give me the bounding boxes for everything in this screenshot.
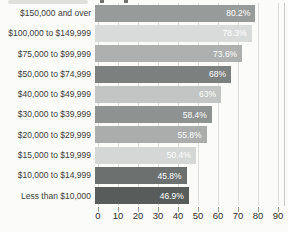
bar-rows: $150,000 and over80.2%$100,000 to $149,9… <box>0 3 288 206</box>
chart-row: $15,000 to $19,99950.4% <box>0 145 288 165</box>
bar-track: 73.6% <box>95 45 288 62</box>
value-label: 45.8% <box>157 171 186 181</box>
chart-row: $30,000 to $39,99958.4% <box>0 104 288 124</box>
bar: 46.9% <box>95 187 189 204</box>
value-label: 55.8% <box>177 130 206 140</box>
tick-label: 60 <box>207 210 229 221</box>
value-label: 50.4% <box>167 150 196 160</box>
category-label: $20,000 to $29,999 <box>0 125 95 145</box>
category-label: $30,000 to $39,999 <box>0 104 95 124</box>
tick-label: 70 <box>227 210 249 221</box>
bar-track: 45.8% <box>95 167 288 184</box>
bar-track: 46.9% <box>95 187 288 204</box>
value-label: 63% <box>199 89 221 99</box>
category-label: $15,000 to $19,999 <box>0 145 95 165</box>
bar-track: 78.3% <box>95 25 288 42</box>
x-axis: 0102030405060708090 <box>0 207 288 223</box>
bar-track: 80.2% <box>95 5 288 22</box>
value-label: 68% <box>209 69 231 79</box>
category-label: $10,000 to $14,999 <box>0 165 95 185</box>
bar-track: 68% <box>95 66 288 83</box>
value-label: 58.4% <box>183 110 212 120</box>
category-label: $40,000 to $49,999 <box>0 84 95 104</box>
category-label: $150,000 and over <box>0 3 95 23</box>
bar-track: 58.4% <box>95 106 288 123</box>
chart-row: $40,000 to $49,99963% <box>0 84 288 104</box>
bar: 73.6% <box>95 45 242 62</box>
value-label: 80.2% <box>226 8 255 18</box>
tick-label: 90 <box>267 210 288 221</box>
chart-row: $20,000 to $29,99955.8% <box>0 125 288 145</box>
category-label: $100,000 to $149,999 <box>0 23 95 43</box>
tick-label: 20 <box>127 210 149 221</box>
bar-track: 63% <box>95 86 288 103</box>
value-label: 78.3% <box>222 28 251 38</box>
value-label: 73.6% <box>213 49 242 59</box>
bar: 68% <box>95 66 231 83</box>
tick-label: 50 <box>187 210 209 221</box>
tick-label: 30 <box>147 210 169 221</box>
tick-label: 40 <box>167 210 189 221</box>
chart-row: $75,000 to $99,99973.6% <box>0 44 288 64</box>
income-bar-chart: $150,000 and over80.2%$100,000 to $149,9… <box>0 0 288 232</box>
bar: 78.3% <box>95 25 252 42</box>
chart-row: $50,000 to $74,99968% <box>0 64 288 84</box>
bar: 58.4% <box>95 106 212 123</box>
bar: 55.8% <box>95 126 207 143</box>
chart-row: Less than $10,00046.9% <box>0 186 288 206</box>
category-label: Less than $10,000 <box>0 186 95 206</box>
chart-row: $150,000 and over80.2% <box>0 3 288 23</box>
bar-track: 50.4% <box>95 147 288 164</box>
bar: 45.8% <box>95 167 187 184</box>
value-label: 46.9% <box>160 191 189 201</box>
bar: 50.4% <box>95 147 196 164</box>
bar: 80.2% <box>95 5 255 22</box>
chart-row: $100,000 to $149,99978.3% <box>0 23 288 43</box>
chart-row: $10,000 to $14,99945.8% <box>0 165 288 185</box>
category-label: $50,000 to $74,999 <box>0 64 95 84</box>
bar: 63% <box>95 86 221 103</box>
bar-track: 55.8% <box>95 126 288 143</box>
tick-label: 10 <box>107 210 129 221</box>
tick-label: 80 <box>247 210 269 221</box>
category-label: $75,000 to $99,999 <box>0 44 95 64</box>
tick-label: 0 <box>87 210 109 221</box>
